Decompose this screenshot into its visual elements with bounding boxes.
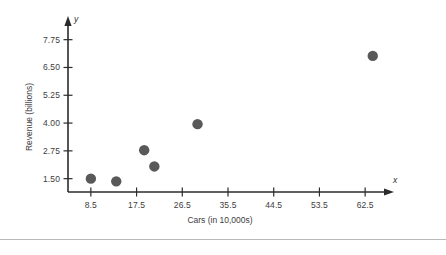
y-axis-letter: y (74, 14, 78, 24)
y-tick-label: 2.75 (43, 146, 60, 156)
y-tick-label: 7.75 (43, 35, 60, 45)
x-tick-label: 53.5 (311, 200, 328, 210)
x-tick-label: 17.5 (128, 200, 145, 210)
axes-group (64, 16, 394, 196)
data-point (111, 176, 121, 186)
data-point (368, 51, 378, 61)
x-tick-label: 35.5 (220, 200, 237, 210)
data-point (139, 145, 149, 155)
data-point (86, 173, 96, 183)
bottom-divider (0, 239, 446, 240)
y-tick-label: 1.50 (43, 174, 60, 184)
y-tick-label: 5.25 (43, 90, 60, 100)
data-points-group (86, 51, 378, 187)
data-point (149, 161, 159, 171)
y-tick-label: 4.00 (43, 118, 60, 128)
y-tick-label: 6.50 (43, 62, 60, 72)
data-point (192, 119, 202, 129)
x-tick-label: 26.5 (174, 200, 191, 210)
tick-marks-group (64, 40, 366, 197)
y-axis-title: Revenue (billions) (24, 82, 34, 150)
x-axis-title: Cars (in 10,000s) (187, 215, 252, 225)
x-axis-arrowhead (384, 188, 394, 195)
y-axis-arrowhead (64, 16, 71, 26)
x-axis-letter: x (393, 175, 397, 185)
x-tick-label: 62.5 (357, 200, 374, 210)
scatter-plot-figure: 1.502.754.005.256.507.758.517.526.535.54… (0, 0, 446, 255)
x-tick-label: 8.5 (85, 200, 97, 210)
x-tick-label: 44.5 (265, 200, 282, 210)
